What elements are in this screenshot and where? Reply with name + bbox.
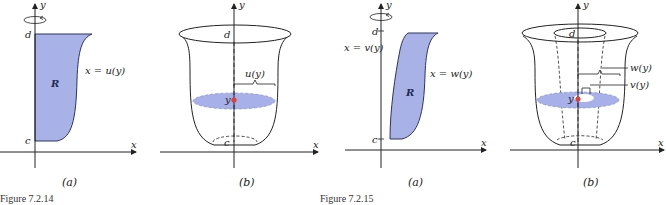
- top-rim: [179, 25, 291, 43]
- axis-label-y: y: [39, 0, 46, 10]
- sublabel-b: (b): [583, 176, 599, 189]
- axis-label-x: x: [313, 139, 319, 150]
- radius-label-v: v(y): [630, 79, 649, 90]
- caption-fig-7-2-15: Figure 7.2.15: [320, 193, 374, 204]
- sublabel-a: (a): [408, 176, 423, 189]
- fig-7-2-15-panel-a: y x d c R x = v(y) x = w(y) (a): [344, 0, 487, 189]
- radius-label-u: u(y): [245, 68, 265, 79]
- region-label: R: [50, 78, 59, 89]
- tick-label-c: c: [25, 135, 31, 146]
- radius-brace: [234, 80, 275, 86]
- outer-radius-brace: [578, 70, 620, 76]
- curve-label-v: x = v(y): [344, 42, 384, 53]
- region-r: [390, 33, 438, 139]
- axis-label-x: x: [131, 139, 137, 150]
- sublabel-a: (a): [62, 176, 77, 189]
- tick-label-c: c: [224, 137, 230, 148]
- axis-label-x: x: [658, 137, 664, 148]
- region-r: [35, 34, 92, 141]
- tick-label-d: d: [224, 29, 230, 40]
- axis-label-y: y: [582, 0, 589, 10]
- radius-label-w: w(y): [630, 62, 652, 73]
- tick-label-d: d: [569, 28, 575, 39]
- caption-fig-7-2-14: Figure 7.2.14: [0, 193, 54, 204]
- axis-label-x: x: [481, 137, 487, 148]
- point-label-y: y: [567, 93, 574, 104]
- curve-label-u: x = u(y): [85, 65, 125, 76]
- point-y: [575, 96, 580, 101]
- axis-label-y: y: [385, 0, 392, 10]
- point-label-y: y: [224, 94, 231, 105]
- figure-canvas: y x d c R x = u(y) (a) Figure 7.2.14 y x…: [0, 0, 666, 205]
- fig-7-2-15-panel-b: y x d c y w(y) v(y) (b): [510, 0, 664, 189]
- tick-label-c: c: [570, 137, 576, 148]
- curve-label-w: x = w(y): [430, 68, 472, 79]
- point-y: [231, 97, 236, 102]
- region-label: R: [405, 87, 414, 98]
- top-rim-inner: [554, 28, 606, 38]
- tick-label-d: d: [25, 29, 31, 40]
- tick-label-d: d: [372, 26, 378, 37]
- sublabel-b: (b): [239, 176, 255, 189]
- fig-7-2-14-panel-b: y x d c y u(y) (b): [160, 0, 319, 189]
- solid-outline: [523, 36, 637, 145]
- tick-label-c: c: [372, 134, 378, 145]
- axis-label-y: y: [238, 0, 245, 10]
- solid-outline: [180, 35, 290, 145]
- fig-7-2-14-panel-a: y x d c R x = u(y) (a): [0, 0, 137, 189]
